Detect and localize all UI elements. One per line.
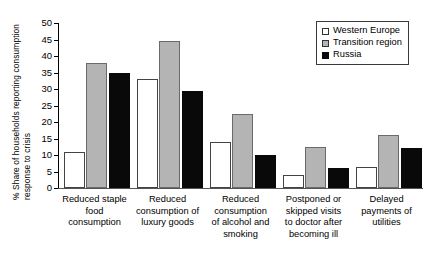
bar bbox=[378, 135, 399, 188]
bar bbox=[86, 63, 107, 188]
bar bbox=[137, 79, 158, 188]
y-axis-tick bbox=[54, 188, 58, 189]
bar bbox=[356, 167, 377, 188]
y-axis-tick-label: 10 bbox=[41, 150, 52, 160]
bar bbox=[232, 114, 253, 188]
y-axis-tick-label: 25 bbox=[41, 101, 52, 111]
y-axis-tick-label: 30 bbox=[41, 84, 52, 94]
bar bbox=[305, 147, 326, 188]
y-axis-tick-label: 20 bbox=[41, 117, 52, 127]
bar bbox=[401, 148, 422, 188]
y-axis-tick-label: 40 bbox=[41, 51, 52, 61]
y-axis-tick-label: 15 bbox=[41, 134, 52, 144]
bar bbox=[64, 152, 85, 188]
bar bbox=[328, 168, 349, 188]
bar-group bbox=[131, 23, 204, 188]
y-axis-title: % Share of households reporting consumpt… bbox=[0, 0, 36, 205]
legend-item: Western Europe bbox=[322, 25, 402, 37]
y-axis-tick-label: 0 bbox=[47, 183, 52, 193]
legend-item-label: Western Europe bbox=[333, 26, 400, 35]
x-axis-category-label: Delayed payments of utilities bbox=[344, 194, 429, 229]
legend-swatch-icon bbox=[322, 28, 329, 35]
bar bbox=[109, 73, 130, 189]
legend-item-label: Russia bbox=[333, 50, 361, 59]
y-axis-title-line-2: response to crisis bbox=[22, 133, 32, 200]
bar bbox=[182, 91, 203, 188]
bar bbox=[283, 175, 304, 188]
legend-swatch-icon bbox=[322, 52, 329, 59]
bar-group bbox=[204, 23, 277, 188]
y-axis-tick-label: 5 bbox=[47, 167, 52, 177]
bar bbox=[159, 41, 180, 188]
bar-chart: % Share of households reporting consumpt… bbox=[0, 0, 441, 262]
y-axis-title-line-1: % Share of households reporting consumpt… bbox=[11, 24, 21, 200]
legend: Western EuropeTransition regionRussia bbox=[316, 21, 409, 65]
y-axis-tick-label: 35 bbox=[41, 68, 52, 78]
bar bbox=[210, 142, 231, 188]
legend-item-label: Transition region bbox=[333, 38, 402, 47]
legend-item: Russia bbox=[322, 49, 402, 61]
legend-swatch-icon bbox=[322, 40, 329, 47]
y-axis-tick-label: 50 bbox=[41, 18, 52, 28]
bar bbox=[255, 155, 276, 188]
legend-item: Transition region bbox=[322, 37, 402, 49]
bar-group bbox=[58, 23, 131, 188]
x-axis-line bbox=[58, 188, 423, 189]
y-axis-tick-label: 45 bbox=[41, 35, 52, 45]
